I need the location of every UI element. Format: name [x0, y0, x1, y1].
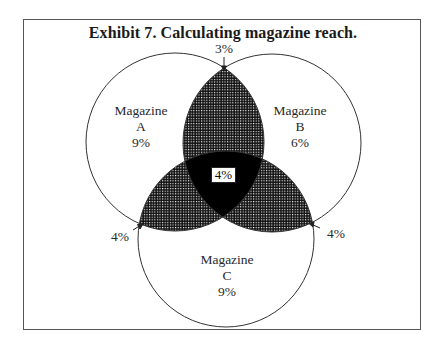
magazine-b-value: 6% — [273, 135, 326, 151]
magazine-c-label: Magazine C 9% — [200, 252, 253, 300]
magazine-a-name: Magazine — [114, 103, 167, 119]
magazine-a-value: 9% — [114, 135, 167, 151]
arrow-bc-icon — [309, 222, 320, 228]
overlap-ab-label: 3% — [215, 41, 233, 57]
arrow-ac-icon — [133, 224, 143, 230]
overlap-ac-label: 4% — [111, 229, 129, 245]
magazine-c-letter: C — [200, 268, 253, 284]
magazine-b-name: Magazine — [273, 103, 326, 119]
magazine-a-letter: A — [114, 119, 167, 135]
overlap-bc-label: 4% — [327, 226, 345, 242]
magazine-c-name: Magazine — [200, 252, 253, 268]
exhibit-title: Exhibit 7. Calculating magazine reach. — [23, 24, 423, 42]
magazine-b-label: Magazine B 6% — [273, 103, 326, 151]
magazine-b-letter: B — [273, 119, 326, 135]
magazine-a-label: Magazine A 9% — [114, 103, 167, 151]
magazine-c-value: 9% — [200, 284, 253, 300]
overlap-abc-label: 4% — [211, 167, 236, 183]
